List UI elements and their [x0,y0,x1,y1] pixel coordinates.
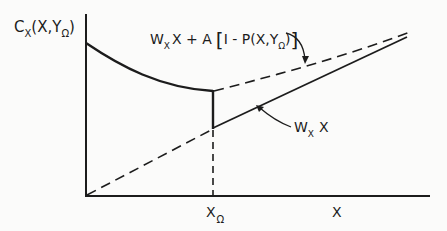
wx-line-dashed [87,129,213,195]
x-omega-tick-label: XΩ [206,204,225,225]
cost-function-diagram: CX(X,YΩ) WXX + A[I - P(X,YΩ)] WXX XΩ X [0,0,447,231]
lower-line-label: WXX [294,119,329,139]
wx-line-solid [213,37,407,128]
x-axis-label: X [332,204,342,220]
lower-label-arrow [260,108,291,127]
upper-arrowhead-icon [302,56,309,64]
y-axis-label: CX(X,YΩ) [14,18,75,39]
upper-curve-label: WXX + A[I - P(X,YΩ)] [150,28,298,52]
cost-curve-solid [86,43,213,91]
